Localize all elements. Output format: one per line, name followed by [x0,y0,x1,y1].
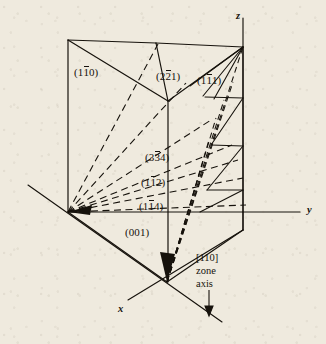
miller-overbar: 1 [83,66,89,78]
zone-axis-word-axis: axis [196,277,218,290]
miller-post: 1) [212,74,221,86]
trace-step-1 [211,98,243,145]
axis-label-z: z [236,10,240,22]
miller-post: 4) [154,200,163,212]
zone-axis-pointer [205,290,213,316]
axis-label-y: y [307,204,312,216]
miller-post: 4) [160,151,169,163]
plane-label-1bar14: (114) [139,200,163,212]
plane-label-1bar11: (111) [197,74,221,86]
rung-1 [205,97,243,98]
zone-axis-indices: [110] [196,251,218,264]
miller-pre: (1 [74,66,83,78]
miller-post: 1) [171,70,180,82]
miller-post: 0) [89,66,98,78]
miller-pre: (1 [141,176,150,188]
convergence-arrowheads [68,205,175,282]
miller-overbar: 1 [206,74,212,86]
miller-overbar: 1 [148,200,154,212]
miller-pre: (2 [156,70,165,82]
x-axis-line-main [28,185,222,322]
plane-label-001: (001) [125,226,149,238]
miller-post: 2) [156,176,165,188]
plane-label-3bar34: (334) [145,151,169,163]
zone-axis-caption: [110] zone axis [196,251,218,290]
plane-label-2bar21: (221) [156,70,180,82]
crystal-zone-axis-figure: z y x (110) (221) (111) (334) (112) (114… [0,0,326,344]
x-axis-line-upper [128,230,243,300]
plane-label-1bar12: (112) [141,176,165,188]
miller-pre: (3 [145,151,154,163]
axis-label-x: x [118,303,123,315]
miller-overbar: 3 [154,151,160,163]
edge-top-right-back [156,43,243,47]
edge-top-left-back [68,40,156,43]
axis-lines [28,18,300,322]
miller-overbar: 1 [150,176,156,188]
trace-step-3 [200,190,243,212]
miller-overbar: 2 [165,70,171,82]
rung-2 [211,145,243,146]
plane-label-1bar10: (110) [74,66,98,78]
miller-pre: (1 [197,74,206,86]
miller-pre: (001) [125,226,149,238]
zone-axis-word-zone: zone [196,264,218,277]
diagram-canvas [0,0,326,344]
miller-pre: (1 [139,200,148,212]
edge-base-left [68,212,167,282]
